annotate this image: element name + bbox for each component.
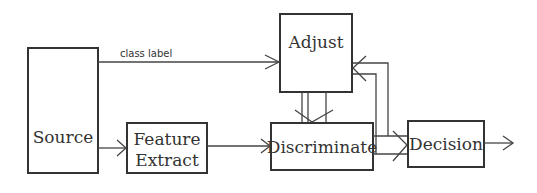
- edge-discriminate-to-decision: [373, 131, 407, 161]
- edge-adjust-to-discriminate: [295, 92, 333, 122]
- block-diagram: Source Feature Extract Adjust Discrimina…: [0, 0, 537, 193]
- decision-label: Decision: [409, 134, 483, 154]
- node-feature-extract: Feature Extract: [127, 123, 207, 173]
- arrowhead-icon: [353, 56, 366, 81]
- node-discriminate: Discriminate: [267, 123, 377, 170]
- feature-extract-label-1: Feature: [133, 129, 200, 149]
- class-label-text: class label: [120, 48, 172, 59]
- edge-decision-output: [484, 136, 513, 150]
- edge-class-label: class label: [98, 48, 279, 69]
- node-adjust: Adjust: [280, 14, 352, 92]
- edge-source-to-feature: [98, 140, 126, 156]
- adjust-label: Adjust: [288, 32, 344, 52]
- feature-extract-label-2: Extract: [135, 150, 199, 170]
- edge-feature-to-discriminate: [207, 139, 270, 153]
- arrowhead-icon: [295, 110, 333, 122]
- node-decision: Decision: [408, 121, 484, 167]
- source-label: Source: [33, 127, 94, 147]
- node-source: Source: [28, 48, 98, 173]
- discriminate-label: Discriminate: [267, 137, 377, 157]
